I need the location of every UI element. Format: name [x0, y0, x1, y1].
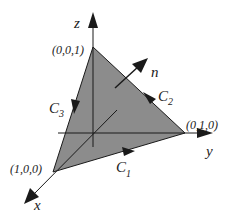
curve-label-c1: C 1	[116, 159, 131, 179]
svg-text:2: 2	[168, 96, 173, 107]
surface-diagram: z y x (0,0,1) (0,1,0) (1,0,0) n C 1 C 2 …	[0, 0, 233, 218]
z-axis-label: z	[73, 15, 80, 31]
normal-label: n	[151, 64, 159, 80]
vertex-label-z: (0,0,1)	[52, 43, 84, 57]
y-axis-label: y	[204, 143, 213, 159]
curve-label-c2: C 2	[158, 88, 173, 107]
triangle-surface	[53, 47, 185, 172]
z-axis-arrow-icon	[88, 12, 98, 28]
curve-label-c3: C 3	[49, 100, 64, 119]
vertex-label-x: (1,0,0)	[10, 162, 42, 176]
vertex-label-y: (0,1,0)	[186, 118, 218, 132]
x-axis-label: x	[33, 197, 41, 213]
diagram-canvas: z y x (0,0,1) (0,1,0) (1,0,0) n C 1 C 2 …	[0, 0, 233, 218]
svg-text:1: 1	[126, 168, 131, 179]
svg-text:3: 3	[58, 108, 64, 119]
